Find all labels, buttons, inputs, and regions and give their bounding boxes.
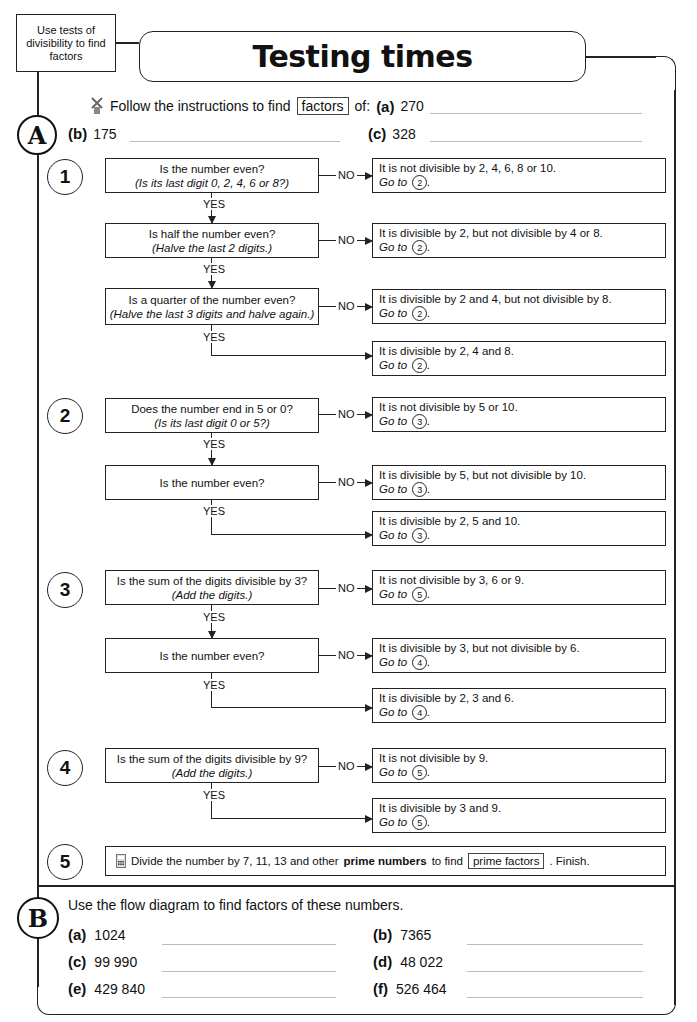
item-value: 429 840 <box>94 981 145 997</box>
item-label-c: (c) <box>368 125 386 142</box>
result-text: It is divisible by 2 and 4, but not divi… <box>379 292 659 306</box>
yes-arrow <box>211 534 372 535</box>
item-c-row: (c) 328 <box>368 125 416 142</box>
answer-line[interactable] <box>162 944 336 945</box>
b-item-a: (a) 1024 <box>68 926 126 943</box>
answer-line-c[interactable] <box>430 141 642 142</box>
result-box: It is divisible by 2, 3 and 6. Go to 4. <box>372 688 666 723</box>
goto-text: Go to <box>379 176 407 188</box>
answer-line[interactable] <box>162 997 336 998</box>
goto-step[interactable]: 2 <box>412 175 427 190</box>
goto-step[interactable]: 2 <box>412 358 427 373</box>
section-divider <box>37 885 675 887</box>
item-value-a: 270 <box>400 98 423 114</box>
title-box: Testing times <box>139 31 586 82</box>
question-text: Is the number even? <box>106 476 318 490</box>
question-text: Is the number even? <box>106 649 318 663</box>
result-text: It is divisible by 5, but not divisible … <box>379 468 659 482</box>
result-box: It is not divisible by 5 or 10. Go to 3. <box>372 397 666 432</box>
goto-step[interactable]: 2 <box>412 306 427 321</box>
section-a-badge: A <box>17 115 57 155</box>
question-box: Is the number even? <box>105 465 319 500</box>
goto-step[interactable]: 4 <box>412 705 427 720</box>
goto-text: Go to <box>379 588 407 600</box>
step-number: 3 <box>60 579 71 601</box>
goto-step[interactable]: 5 <box>412 815 427 830</box>
section-a-intro: Follow the instructions to find factors … <box>90 97 424 115</box>
result-box: It is not divisible by 9. Go to 5. <box>372 748 666 783</box>
yes-arrow <box>211 355 372 356</box>
no-label: NO <box>336 169 357 181</box>
goto-step[interactable]: 2 <box>412 240 427 255</box>
final-step-box: Divide the number by 7, 11, 13 and other… <box>105 846 666 876</box>
final-text: Divide the number by 7, 11, 13 and other <box>131 854 339 868</box>
result-text: It is divisible by 3 and 9. <box>379 801 659 815</box>
goto-step[interactable]: 5 <box>412 765 427 780</box>
goto-step[interactable]: 3 <box>412 414 427 429</box>
goto-step[interactable]: 3 <box>412 528 427 543</box>
question-hint: (Add the digits.) <box>106 766 318 780</box>
question-box: Is the number even? <box>105 638 319 673</box>
yes-label: YES <box>203 438 225 450</box>
question-text: Does the number end in 5 or 0? <box>106 402 318 416</box>
b-item-d: (d) 48 022 <box>373 953 443 970</box>
yes-arrow <box>211 818 372 819</box>
yes-label: YES <box>203 263 225 275</box>
answer-line[interactable] <box>467 997 643 998</box>
objective-box: Use tests of divisibility to find factor… <box>16 14 116 72</box>
connector <box>116 42 139 44</box>
answer-line[interactable] <box>467 944 643 945</box>
answer-line-a[interactable] <box>430 113 642 114</box>
section-a-letter: A <box>28 121 47 150</box>
calculator-icon <box>116 854 126 868</box>
answer-line[interactable] <box>162 971 336 972</box>
yes-label: YES <box>203 331 225 343</box>
question-hint: (Is its last digit 0 or 5?) <box>106 416 318 430</box>
yes-label: YES <box>203 611 225 623</box>
goto-text: Go to <box>379 307 407 319</box>
yes-arrow <box>211 707 372 708</box>
question-text: Is a quarter of the number even? <box>106 293 318 307</box>
result-text: It is divisible by 2, 5 and 10. <box>379 514 659 528</box>
frame-right <box>674 90 676 1005</box>
b-item-e: (e) 429 840 <box>68 980 145 997</box>
goto-step[interactable]: 3 <box>412 482 427 497</box>
goto-step[interactable]: 4 <box>412 655 427 670</box>
b-item-f: (f) 526 464 <box>373 980 447 997</box>
item-value: 7365 <box>400 927 431 943</box>
keyword-factors: factors <box>297 97 349 115</box>
frame-left <box>37 72 39 987</box>
answer-line-b[interactable] <box>130 141 340 142</box>
goto-text: Go to <box>379 241 407 253</box>
goto-text: Go to <box>379 706 407 718</box>
b-item-c: (c) 99 990 <box>68 953 137 970</box>
item-label: (e) <box>68 980 86 997</box>
goto-text: Go to <box>379 529 407 541</box>
step-number: 2 <box>60 405 71 427</box>
item-value: 526 464 <box>396 981 447 997</box>
goto-text: Go to <box>379 359 407 371</box>
item-label: (f) <box>373 980 388 997</box>
step-5-badge: 5 <box>47 844 83 880</box>
yes-label: YES <box>203 679 225 691</box>
result-text: It is not divisible by 9. <box>379 751 659 765</box>
result-box: It is divisible by 2, 5 and 10. Go to 3. <box>372 511 666 546</box>
result-text: It is divisible by 2, but not divisible … <box>379 226 659 240</box>
item-label: (b) <box>373 926 392 943</box>
goto-text: Go to <box>379 483 407 495</box>
step-number: 5 <box>60 851 71 873</box>
result-box: It is divisible by 5, but not divisible … <box>372 465 666 500</box>
question-box: Does the number end in 5 or 0? (Is its l… <box>105 398 319 433</box>
result-box: It is not divisible by 2, 4, 6, 8 or 10.… <box>372 158 666 193</box>
result-text: It is not divisible by 2, 4, 6, 8 or 10. <box>379 161 659 175</box>
goto-text: Go to <box>379 415 407 427</box>
question-text: Is the sum of the digits divisible by 9? <box>106 752 318 766</box>
question-box: Is a quarter of the number even? (Halve … <box>105 288 319 325</box>
answer-line[interactable] <box>467 971 643 972</box>
final-text-end: . Finish. <box>549 854 589 868</box>
page-title: Testing times <box>252 39 472 74</box>
yes-label: YES <box>203 789 225 801</box>
question-box: Is the sum of the digits divisible by 9?… <box>105 748 319 783</box>
item-label-a: (a) <box>376 98 394 115</box>
goto-step[interactable]: 5 <box>412 587 427 602</box>
